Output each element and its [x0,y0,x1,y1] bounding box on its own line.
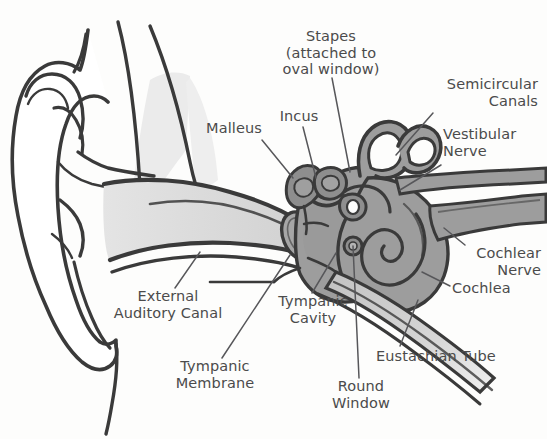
label-cochlea: Cochlea [452,280,532,297]
label-cochlear-nerve: Cochlear Nerve [455,245,541,278]
label-round-window: Round Window [320,378,402,411]
label-tympanic-cavity: Tympanic Cavity [268,293,358,326]
label-vestibular-nerve: Vestibular Nerve [443,126,543,159]
oval-window [347,200,359,214]
label-incus: Incus [268,108,330,125]
label-tympanic-membrane: Tympanic Membrane [160,358,270,391]
label-external-auditory-canal: External Auditory Canal [93,288,243,321]
label-malleus: Malleus [198,120,270,137]
label-eustachian-tube: Eustachian Tube [376,348,516,365]
label-stapes: Stapes (attached to oval window) [266,28,396,78]
ear-anatomy-diagram: Stapes (attached to oval window) Incus M… [0,0,547,439]
label-semicircular-canals: Semicircular Canals [420,76,538,109]
